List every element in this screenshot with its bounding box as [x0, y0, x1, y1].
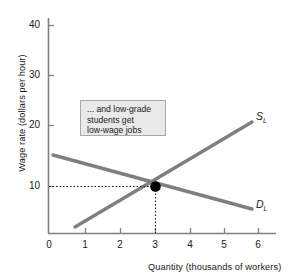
y-tick-label-30: 30: [18, 69, 40, 80]
equilibrium-point-marker: [150, 181, 161, 192]
x-tick-label-2: 2: [112, 239, 128, 250]
supply-curve-label-text: S: [256, 110, 263, 122]
annotation-line-3: low-wage jobs: [87, 125, 160, 136]
x-tick-label-3: 3: [147, 239, 163, 250]
demand-curve-label: DL: [256, 198, 268, 212]
supply-curve: [75, 122, 252, 227]
plot-area: [0, 0, 294, 280]
wage-rate-quantity-chart: Wage rate (dollars per hour) Quantity (t…: [0, 0, 294, 280]
x-tick-label-0: 0: [41, 239, 57, 250]
y-axis-ticks: [49, 26, 55, 187]
annotation-line-2: students get: [87, 115, 160, 126]
y-tick-label-10: 10: [18, 180, 40, 191]
y-tick-label-20: 20: [18, 119, 40, 130]
supply-curve-label: SL: [256, 110, 267, 124]
x-tick-label-1: 1: [77, 239, 93, 250]
x-axis-ticks: [86, 228, 259, 234]
y-tick-label-40: 40: [18, 19, 40, 30]
x-axis-title: Quantity (thousands of workers): [148, 262, 281, 272]
demand-curve-label-subscript: L: [264, 205, 268, 212]
annotation-line-1: ... and low-grade: [87, 104, 160, 115]
supply-curve-label-subscript: L: [263, 117, 267, 124]
x-tick-label-4: 4: [182, 239, 198, 250]
x-tick-label-5: 5: [216, 239, 232, 250]
x-tick-label-6: 6: [250, 239, 266, 250]
demand-curve-label-text: D: [256, 198, 264, 210]
annotation-box: ... and low-grade students get low-wage …: [80, 100, 166, 136]
y-axis-title: Wage rate (dollars per hour): [17, 28, 27, 198]
